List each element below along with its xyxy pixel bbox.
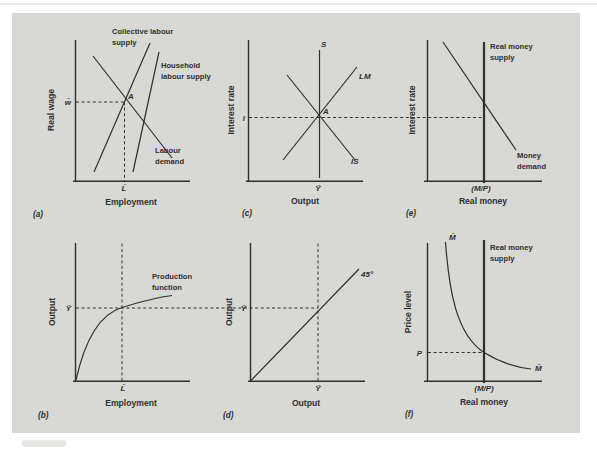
- panel-d-x-tick: Ȳ: [315, 384, 321, 393]
- figure-panel-background: [12, 13, 580, 433]
- panel-a-y-tick: w̄: [65, 98, 72, 107]
- panel-a-equilibrium-point-label: A: [127, 92, 134, 101]
- textbook-figure-page: Collective labour supply Household labou…: [0, 0, 597, 450]
- money-stock-label-bottom: M̄: [535, 364, 542, 373]
- panel-d-y-tick: Ȳ: [241, 304, 247, 313]
- panel-d-x-axis-label: Output: [292, 398, 320, 408]
- panel-c-x-axis-label: Output: [291, 196, 319, 206]
- panel-c-letter: (c): [242, 209, 252, 218]
- panel-c-equilibrium-point-label: A: [322, 107, 329, 116]
- panel-c-y-axis-label: Interest rate: [226, 85, 236, 134]
- panel-b-letter: (b): [38, 411, 49, 420]
- panel-e-x-axis-label: Real money: [459, 196, 507, 206]
- caption-smudge: [22, 440, 66, 447]
- panel-b-y-axis-label: Output: [47, 298, 57, 326]
- panel-a-letter: (a): [33, 210, 43, 219]
- panel-e-letter: (e): [406, 209, 416, 218]
- is-label: IS: [351, 157, 359, 166]
- production-function-label-line2: function: [152, 283, 182, 292]
- page-scan-streak: [0, 3, 597, 5]
- panel-f-real-money-supply-label-line2: supply: [490, 254, 515, 263]
- panel-f-x-tick: (M/P): [474, 384, 494, 393]
- panel-a-x-axis-label: Employment: [105, 197, 157, 207]
- production-function-label-line1: Production: [152, 272, 192, 281]
- panel-b-y-tick: Ȳ: [66, 304, 72, 313]
- panel-b-x-axis-label: Employment: [105, 398, 157, 408]
- panel-d-y-axis-label: Output: [224, 298, 234, 326]
- 45-degree-label: 45°: [360, 270, 374, 279]
- panel-e-x-tick: (M/P): [471, 184, 491, 193]
- collective-labour-supply-label-line2: supply: [112, 38, 137, 47]
- money-demand-label-line2: demand: [517, 162, 546, 171]
- labour-demand-label-line1: Labour: [155, 146, 181, 155]
- panel-b-x-tick: L̄: [121, 384, 126, 393]
- panel-e-y-axis-label: Interest rate: [407, 85, 417, 134]
- aggregate-supply-label: S: [321, 40, 327, 49]
- real-money-supply-label-line2: supply: [490, 53, 515, 62]
- household-labour-supply-label-line1: Household: [161, 61, 201, 70]
- money-demand-label-line1: Money: [517, 151, 542, 160]
- panel-f-x-axis-label: Real money: [460, 397, 508, 407]
- panel-c-x-tick: Ȳ: [315, 184, 321, 193]
- figure-canvas: Collective labour supply Household labou…: [0, 0, 597, 450]
- household-labour-supply-label-line2: labour supply: [161, 72, 212, 81]
- panel-f-letter: (f): [405, 410, 413, 419]
- real-money-supply-label-line1: Real money: [490, 42, 533, 51]
- labour-demand-label-line2: demand: [155, 157, 184, 166]
- lm-label: LM: [359, 72, 371, 81]
- panel-f-real-money-supply-label-line1: Real money: [490, 243, 533, 252]
- collective-labour-supply-label-line1: Collective labour: [112, 27, 173, 36]
- panel-a-x-tick: L̄: [122, 184, 127, 193]
- panel-a-y-axis-label: Real wage: [46, 89, 56, 131]
- panel-f-y-tick: P: [417, 349, 423, 358]
- money-stock-label-top: M̄: [449, 233, 456, 242]
- panel-d-letter: (d): [223, 411, 234, 420]
- panel-f-y-axis-label: Price level: [403, 291, 413, 334]
